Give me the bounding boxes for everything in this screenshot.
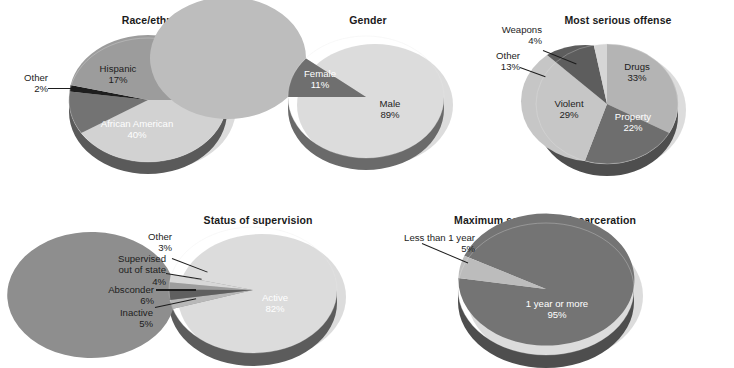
pie-gender <box>250 0 480 185</box>
chart-status-of-supervision: Status of supervision Other 3% Supervise… <box>100 185 390 368</box>
slice-label-supervised-out-of-state: Supervised out of state 4% <box>118 253 166 287</box>
slice-label-drugs: Drugs 33% <box>624 61 650 84</box>
slice-label-active: Active 82% <box>262 292 288 315</box>
chart-most-serious-offense: Most serious offense Weapons 4% Other 13… <box>480 0 734 185</box>
slice-label-other: Other 3% <box>148 231 172 254</box>
pie-maximum-sentence <box>390 185 690 368</box>
slice-label-weapons: Weapons 4% <box>502 24 542 47</box>
slice-label-other: Other 13% <box>496 50 520 73</box>
slice-label-african-american: African American 40% <box>101 118 174 141</box>
slice-label-property: Property 22% <box>615 111 651 134</box>
slice-label-other: Other 2% <box>24 72 48 95</box>
slice-label-absconder: Absconder 6% <box>108 284 154 307</box>
chart-gender: Gender Female 11% Male 89% <box>250 0 480 185</box>
slice-label-hispanic: Hispanic 17% <box>100 63 137 86</box>
leader-line-other <box>48 88 83 89</box>
slice-label-female: Female 11% <box>304 68 336 91</box>
slice-label-inactive: Inactive 5% <box>120 307 153 330</box>
slice-label-male: Male 89% <box>380 98 401 121</box>
slice-label-violent: Violent 29% <box>554 98 583 121</box>
leader-line-absconder <box>156 289 196 291</box>
slice-label-less-than-1-year: Less than 1 year 5% <box>404 232 475 255</box>
slice-label-1-year-or-more: 1 year or more 95% <box>526 298 588 321</box>
chart-maximum-sentence: Maximum sentence of incarceration Less t… <box>390 185 690 368</box>
